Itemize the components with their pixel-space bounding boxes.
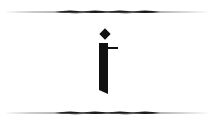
ornamental-info-illustration: [0, 0, 222, 121]
letter-i-icon: [99, 28, 118, 94]
info-glyph-card: i: [0, 0, 222, 121]
bottom-swirl-divider-icon: [4, 112, 210, 115]
top-swirl-divider-icon: [4, 11, 210, 14]
